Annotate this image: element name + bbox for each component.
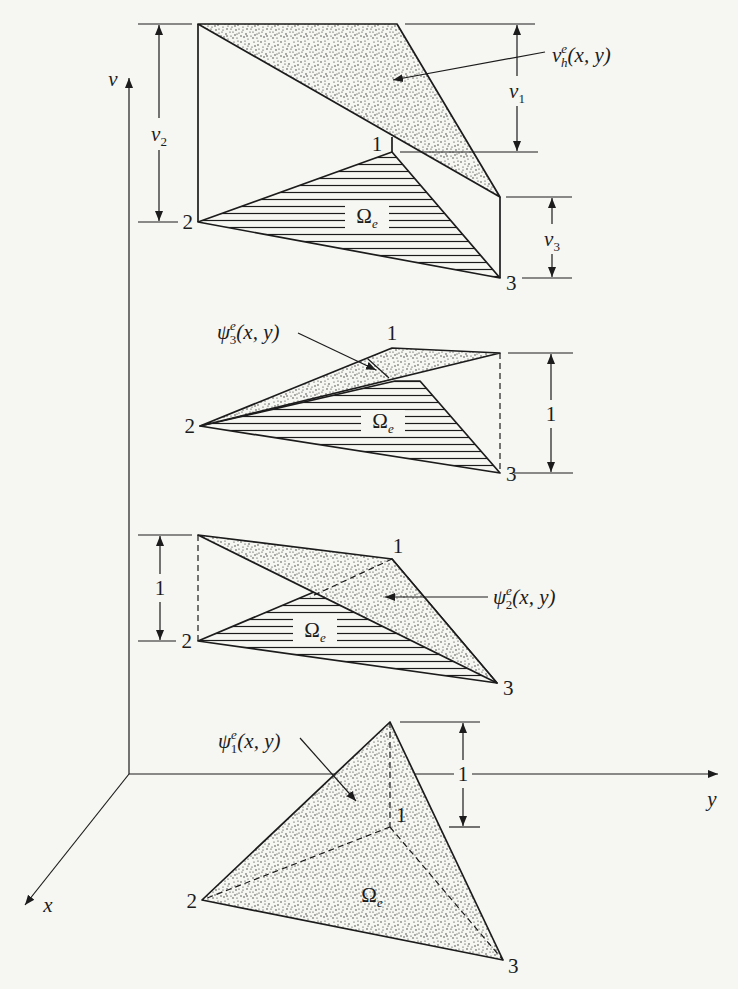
node-2-label: 2 <box>183 210 194 234</box>
panel-interpolated-solution: v2 v1 v3 veh(x, y) 2 1 3 Ωe <box>138 24 611 295</box>
y-axis-label: y <box>705 787 717 811</box>
finite-element-shape-function-diagram: v y x v2 v1 v3 veh(x, y) 2 1 <box>0 0 738 989</box>
dim-v3-label: v3 <box>544 227 560 254</box>
dim-height-label: 1 <box>546 402 557 426</box>
node-1-label: 1 <box>396 803 407 827</box>
panel-shape-function-2: 1 ψe2(x, y) 2 1 3 Ωe <box>138 534 555 700</box>
node-2-label: 2 <box>187 889 198 913</box>
dim-height-label: 1 <box>458 762 469 786</box>
node-1-label: 1 <box>372 132 383 156</box>
node-3-label: 3 <box>506 462 517 486</box>
node-3-label: 3 <box>503 676 514 700</box>
node-3-label: 3 <box>508 954 519 978</box>
shape-function-label: ψe1(x, y) <box>218 727 280 756</box>
dim-v2-label: v2 <box>151 122 167 149</box>
v-axis-label: v <box>108 67 118 91</box>
node-1-label: 1 <box>387 321 398 345</box>
x-axis-label: x <box>42 893 53 917</box>
node-2-label: 2 <box>182 629 193 653</box>
node-1-label: 1 <box>393 534 404 558</box>
solution-function-label: veh(x, y) <box>552 41 611 70</box>
shape-leader-arrow <box>298 333 376 370</box>
x-axis <box>25 774 129 905</box>
dim-v1-label: v1 <box>509 79 525 106</box>
dim-height-label: 1 <box>155 576 166 600</box>
element-domain-hatched <box>200 381 500 473</box>
shape-function-label: ψe2(x, y) <box>493 583 555 612</box>
shape-function-label: ψe3(x, y) <box>217 318 279 347</box>
panel-shape-function-3: 1 ψe3(x, y) 2 1 3 Ωe <box>185 318 574 486</box>
node-3-label: 3 <box>506 271 517 295</box>
panel-shape-function-1: 1 ψe1(x, y) 2 1 3 Ωe <box>187 722 519 978</box>
node-2-label: 2 <box>185 414 196 438</box>
